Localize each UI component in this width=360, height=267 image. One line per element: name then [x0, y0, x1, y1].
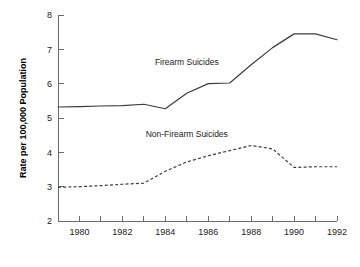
y-tick-label: 2 — [47, 216, 52, 226]
y-axis-title: Rate per 100,000 Population — [18, 58, 28, 178]
x-tick-label: 1986 — [198, 227, 218, 237]
y-tick-label: 4 — [47, 148, 52, 158]
series-label-non-firearm-suicides: Non-Firearm Suicides — [146, 129, 228, 139]
y-tick-label: 5 — [47, 113, 52, 123]
line-chart: Rate per 100,000 Population 2345678 1980… — [0, 0, 360, 267]
series-annotations: Firearm SuicidesNon-Firearm Suicides — [146, 57, 228, 139]
x-tick-label: 1990 — [284, 227, 304, 237]
y-tick-label: 6 — [47, 79, 52, 89]
x-tick-label: 1984 — [155, 227, 175, 237]
series-line-firearm-suicides — [58, 34, 337, 109]
y-axis-ticks: 2345678 — [47, 10, 64, 226]
x-tick-label: 1982 — [112, 227, 132, 237]
series-label-firearm-suicides: Firearm Suicides — [155, 57, 219, 67]
y-tick-label: 7 — [47, 45, 52, 55]
x-tick-label: 1992 — [327, 227, 347, 237]
chart-container: Rate per 100,000 Population 2345678 1980… — [0, 0, 360, 267]
series-line-non-firearm-suicides — [58, 145, 337, 187]
y-tick-label: 3 — [47, 182, 52, 192]
y-tick-label: 8 — [47, 10, 52, 20]
x-tick-label: 1980 — [69, 227, 89, 237]
x-axis-ticks: 1980198219841986198819901992 — [58, 216, 347, 237]
x-tick-label: 1988 — [241, 227, 261, 237]
